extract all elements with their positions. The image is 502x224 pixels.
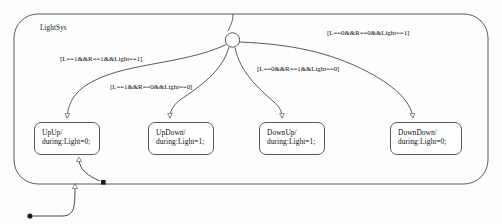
chart-title: LightSys bbox=[40, 24, 67, 32]
state-upup[interactable]: UpUp/ during:Light=0; bbox=[34, 122, 100, 155]
superstate-container[interactable] bbox=[14, 14, 488, 184]
junction-inbound-edge[interactable] bbox=[228, 14, 233, 31]
state-downdown-action: during:Light=0; bbox=[398, 137, 455, 146]
terminal-marker[interactable] bbox=[101, 180, 106, 185]
terminal-transition-arrow bbox=[76, 157, 81, 162]
guard-label-updown: [L==1&&R==0&&Light==0] bbox=[110, 83, 192, 90]
state-downdown[interactable]: DownDown/ during:Light=0; bbox=[390, 122, 462, 155]
state-downup-name: DownUp/ bbox=[267, 128, 318, 137]
state-updown-name: UpDown/ bbox=[156, 128, 207, 137]
guard-label-downup: [L==0&&R==1&&Light==0] bbox=[257, 65, 339, 72]
state-downdown-name: DownDown/ bbox=[398, 128, 455, 137]
state-downup-action: during:Light=1; bbox=[267, 137, 318, 146]
default-transition-dot[interactable] bbox=[27, 213, 32, 218]
guard-label-downdown: [L==0&&R==0&&Light==1] bbox=[327, 29, 409, 36]
state-downup[interactable]: DownUp/ during:Light=1; bbox=[259, 122, 325, 155]
state-upup-name: UpUp/ bbox=[42, 128, 93, 137]
transition-edge-downup[interactable] bbox=[235, 48, 282, 119]
junction-node[interactable] bbox=[225, 33, 239, 47]
transition-edge-downdown[interactable] bbox=[239, 42, 413, 118]
terminal-transition-edge[interactable] bbox=[79, 160, 100, 181]
state-upup-action: during:Light=0; bbox=[42, 137, 93, 146]
default-transition-edge[interactable] bbox=[33, 189, 75, 216]
state-updown-action: during:Light=1; bbox=[156, 137, 207, 146]
guard-label-upup: [L==1&&R==1&&Light==1] bbox=[60, 55, 142, 62]
stateflow-chart-canvas: LightSys [L==1&&R==1&&Light==1] [L==1&&R… bbox=[0, 0, 502, 224]
diagram-connectors bbox=[0, 0, 502, 224]
state-updown[interactable]: UpDown/ during:Light=1; bbox=[148, 122, 214, 155]
